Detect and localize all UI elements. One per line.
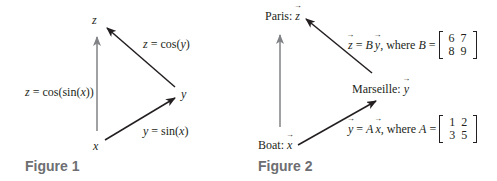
fig2-mp-where: , where bbox=[380, 38, 418, 52]
matrix-b: 6 7 8 9 bbox=[439, 31, 477, 59]
fig1-label-x-to-y: y = sin(x) bbox=[143, 124, 188, 138]
matrix-b-right-bracket bbox=[473, 31, 477, 59]
fig2-mp-arg: y bbox=[375, 38, 380, 52]
fig2-mp-lhs: z bbox=[348, 38, 353, 52]
fig2-node-marseille-var: y bbox=[404, 82, 409, 96]
fig2-node-paris-var: z bbox=[295, 9, 300, 23]
matrix-a-cell: 5 bbox=[458, 129, 470, 142]
fig2-bm-eq2: = bbox=[426, 122, 436, 136]
matrix-a: 1 2 3 5 bbox=[439, 115, 477, 143]
fig1-label-x-to-z-eq: = cos(sin( bbox=[30, 85, 81, 99]
fig1-label-y-to-z: z = cos(y) bbox=[143, 37, 190, 51]
fig1-label-y-to-z-eq: = cos( bbox=[148, 37, 181, 51]
fig2-node-paris-label: Paris: bbox=[265, 9, 295, 23]
matrix-b-cell: 8 bbox=[446, 45, 458, 58]
matrix-b-cell: 9 bbox=[458, 45, 470, 58]
fig2-mp-mat2: B bbox=[418, 38, 425, 52]
matrix-b-grid: 6 7 8 9 bbox=[443, 32, 473, 58]
fig2-bm-where: , where bbox=[381, 122, 419, 136]
fig1-node-y: y bbox=[181, 87, 186, 101]
fig1-label-x-to-z-close: )) bbox=[86, 85, 94, 99]
matrix-a-grid: 1 2 3 5 bbox=[443, 116, 473, 142]
fig1-label-y-to-z-close: ) bbox=[186, 37, 190, 51]
fig2-bm-arg: x bbox=[375, 122, 380, 136]
fig1-node-z: z bbox=[92, 13, 97, 27]
figure-2-caption: Figure 2 bbox=[258, 158, 312, 174]
fig2-bm-mat2: A bbox=[419, 122, 426, 136]
fig2-bm-mat: A bbox=[366, 122, 373, 136]
matrix-a-right-bracket bbox=[473, 115, 477, 143]
fig2-mp-eq: = bbox=[353, 38, 366, 52]
fig1-label-x-to-y-eq: = sin( bbox=[148, 124, 179, 138]
fig1-node-x: x bbox=[93, 139, 98, 153]
fig2-bm-eq: = bbox=[353, 122, 366, 136]
fig2-label-boat-to-marseille: y = Ax, where A = 1 2 3 5 bbox=[348, 115, 477, 143]
fig2-node-boat-label: Boat: bbox=[258, 138, 287, 152]
figure-1-caption: Figure 1 bbox=[25, 158, 79, 174]
fig2-node-marseille-label: Marseille: bbox=[352, 82, 404, 96]
fig2-node-marseille: Marseille: y bbox=[352, 82, 409, 96]
fig2-bm-lhs: y bbox=[348, 122, 353, 136]
matrix-a-cell: 3 bbox=[446, 129, 458, 142]
fig2-label-marseille-to-paris: z = By, where B = 6 7 8 9 bbox=[348, 31, 477, 59]
fig2-mp-eq2: = bbox=[426, 38, 436, 52]
fig2-node-paris: Paris: z bbox=[265, 9, 300, 23]
fig1-label-x-to-z: z = cos(sin(x)) bbox=[25, 85, 94, 99]
fig2-node-boat: Boat: x bbox=[258, 138, 292, 152]
fig2-mp-mat: B bbox=[365, 38, 372, 52]
fig2-node-boat-var: x bbox=[287, 138, 292, 152]
fig1-label-x-to-y-close: ) bbox=[184, 124, 188, 138]
